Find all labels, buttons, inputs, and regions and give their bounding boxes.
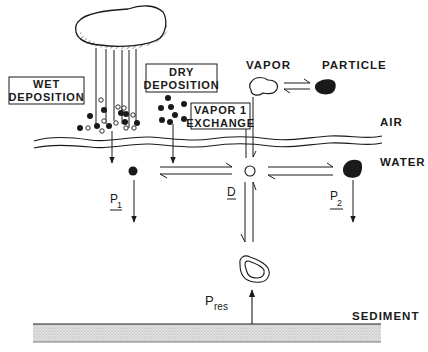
dry-deposition-box: DRY DEPOSITION (144, 64, 220, 92)
water-particle-blob-icon (343, 160, 362, 178)
vapor-blob-icon (250, 78, 278, 96)
p2-subscript: 2 (337, 198, 342, 208)
vapor-label: VAPOR (246, 59, 291, 71)
air-water-interface (34, 136, 382, 148)
d-label: D (227, 185, 236, 199)
water-particle-dot (129, 167, 138, 176)
sediment-region-label: SEDIMENT (352, 310, 419, 322)
dry-deposition-label-line1: DRY (169, 66, 194, 78)
left-equilibrium-arrows (160, 163, 232, 178)
vapor-exchange-label-line1: VAPOR 1 (194, 104, 247, 116)
resuspended-particle-icon (240, 256, 269, 282)
d-symbol: D (227, 185, 236, 199)
vapor-particle-equilibrium-arrows (284, 79, 310, 93)
p2-label: P 2 (330, 189, 343, 209)
wet-deposition-label-line2: DEPOSITION (9, 91, 85, 103)
wet-deposition-label-line1: WET (33, 78, 60, 90)
particle-blob-icon (315, 79, 336, 94)
vapor-exchange-label-line2: EXCHANGE (186, 117, 255, 129)
water-region-label: WATER (380, 156, 426, 168)
particle-label: PARTICLE (322, 59, 387, 71)
pres-subscript: res (214, 301, 228, 312)
dissolved-sediment-exchange-arrows (241, 182, 256, 242)
vapor-exchange-box: VAPOR 1 EXCHANGE (186, 103, 255, 129)
dry-deposition-particles (158, 95, 187, 125)
pres-label: P res (205, 293, 228, 312)
sediment-layer (33, 324, 381, 342)
deposition-diagram: WET DEPOSITION DRY DEPOSITION VAPOR 1 EX… (0, 0, 428, 352)
pres-symbol: P (205, 293, 214, 308)
p1-label: P 1 (110, 192, 122, 210)
right-equilibrium-arrows (268, 163, 333, 179)
wet-deposition-box: WET DEPOSITION (9, 77, 85, 104)
p1-subscript: 1 (117, 200, 122, 210)
dissolved-phase-circle (245, 166, 255, 176)
wet-deposition-rain-lines (96, 48, 136, 128)
cloud-icon (76, 6, 168, 49)
air-region-label: AIR (380, 116, 403, 128)
dry-deposition-label-line2: DEPOSITION (144, 79, 220, 91)
wet-deposition-particles (77, 98, 140, 133)
